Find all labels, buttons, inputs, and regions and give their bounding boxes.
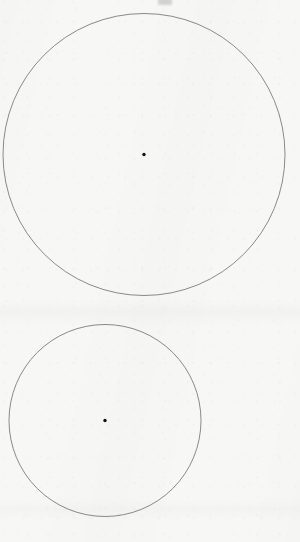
large-circle-centre-dot (142, 153, 145, 156)
figure-canvas (0, 0, 300, 542)
figure-page (0, 0, 300, 542)
small-circle-centre-dot (103, 419, 106, 422)
